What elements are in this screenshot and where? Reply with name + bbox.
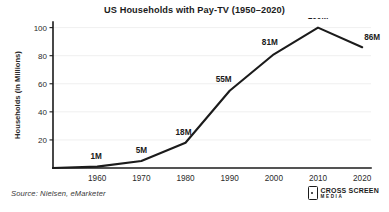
svg-text:1960: 1960 bbox=[88, 174, 107, 183]
svg-text:1990: 1990 bbox=[221, 174, 240, 183]
source-note: Source: Nielsen, eMarketer bbox=[11, 189, 106, 198]
svg-text:80: 80 bbox=[38, 52, 47, 61]
svg-text:20: 20 bbox=[38, 136, 47, 145]
logo-secondary-text: MEDIA bbox=[321, 195, 379, 200]
svg-text:2010: 2010 bbox=[309, 174, 328, 183]
svg-text:55M: 55M bbox=[216, 75, 232, 84]
svg-text:81M: 81M bbox=[262, 38, 278, 47]
svg-text:86M: 86M bbox=[364, 33, 380, 42]
gridlines bbox=[53, 28, 371, 140]
svg-text:18M: 18M bbox=[176, 128, 192, 137]
line-chart-plot: 20406080100 1960197019801990200020102020… bbox=[0, 18, 389, 183]
svg-text:60: 60 bbox=[38, 80, 47, 89]
screen-icon bbox=[308, 186, 318, 200]
chart-card: US Households with Pay-TV (1950–2020) 20… bbox=[0, 0, 389, 212]
brand-logo: CROSS SCREEN MEDIA bbox=[308, 186, 379, 200]
x-axis-ticks: 1960197019801990200020102020 bbox=[88, 174, 372, 183]
y-axis-title: Households (in Millions) bbox=[13, 51, 22, 139]
data-point-labels: 1M5M18M55M81M100M86M bbox=[90, 18, 380, 161]
y-axis-ticks: 20406080100 bbox=[34, 24, 53, 145]
chart-title: US Households with Pay-TV (1950–2020) bbox=[0, 5, 389, 15]
svg-text:40: 40 bbox=[38, 108, 47, 117]
svg-text:100M: 100M bbox=[308, 18, 329, 21]
svg-text:1980: 1980 bbox=[176, 174, 195, 183]
svg-text:100: 100 bbox=[34, 24, 48, 33]
svg-text:1970: 1970 bbox=[132, 174, 151, 183]
svg-text:5M: 5M bbox=[136, 146, 148, 155]
svg-text:2020: 2020 bbox=[353, 174, 372, 183]
svg-text:1M: 1M bbox=[90, 152, 102, 161]
data-series-line bbox=[53, 28, 362, 168]
logo-primary-text: CROSS SCREEN bbox=[321, 187, 379, 194]
logo-wordmark: CROSS SCREEN MEDIA bbox=[321, 187, 379, 200]
svg-text:2000: 2000 bbox=[265, 174, 284, 183]
